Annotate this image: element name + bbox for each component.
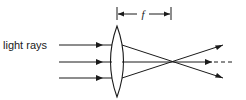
focal-arrowhead-left [118,12,124,17]
refracted-ray-middle-arrow [205,59,212,65]
refracted-rays [122,45,234,78]
focal-length-label: f [141,8,146,20]
refracted-ray-top-arrow [215,73,223,78]
focal-arrowhead-right [164,12,170,17]
refracted-ray-bottom-arrow [215,45,223,50]
incoming-rays [59,42,112,81]
light-rays-label: light rays [3,39,48,51]
incoming-ray-top-arrow [96,42,103,48]
incoming-ray-middle-arrow [96,59,103,65]
focal-length-indicator: f [117,7,171,20]
convex-lens [111,26,124,97]
incoming-ray-bottom-arrow [96,75,103,81]
lens-diagram: f light rays [0,0,246,100]
